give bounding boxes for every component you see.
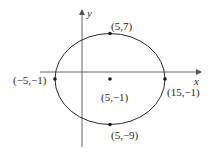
left-vertex-point: [53, 77, 57, 81]
ellipse-diagram: x y (5,7) (5,−1) (5,−9) (−5,−1) (15,−1): [0, 0, 212, 160]
right-vertex-label: (15,−1): [167, 86, 200, 99]
center-point: [108, 77, 112, 81]
top-vertex-label: (5,7): [111, 20, 132, 33]
center-label: (5,−1): [101, 91, 129, 104]
bottom-vertex-point: [108, 123, 112, 127]
y-axis-label: y: [86, 7, 92, 19]
left-vertex-label: (−5,−1): [13, 74, 47, 87]
top-vertex-point: [108, 32, 112, 36]
bottom-vertex-label: (5,−9): [111, 129, 139, 142]
right-vertex-point: [163, 77, 167, 81]
